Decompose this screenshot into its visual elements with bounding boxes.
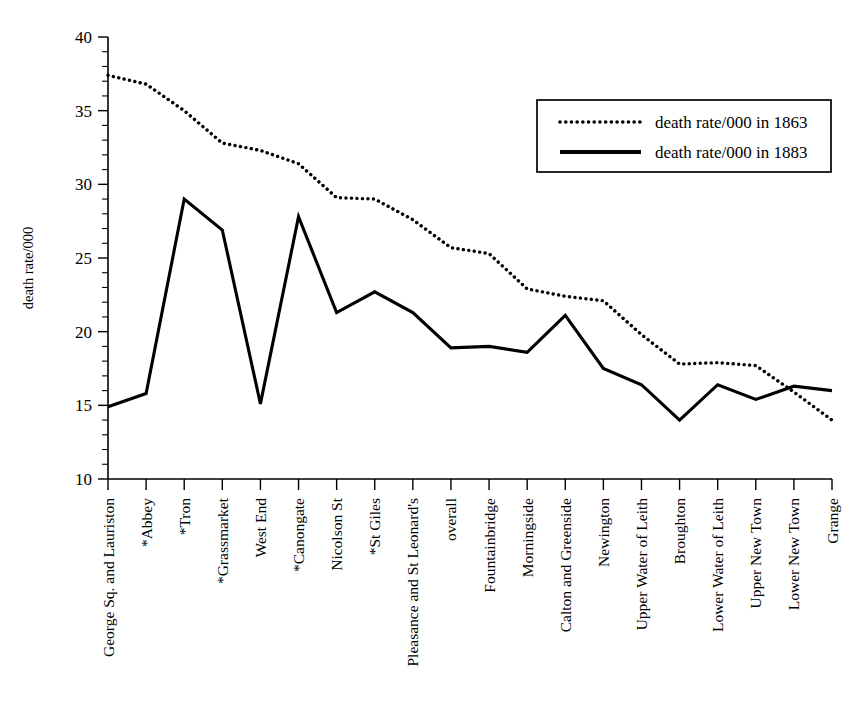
x-tick-label: Lower Water of Leith: [709, 498, 726, 632]
x-tick-label: Broughton: [671, 498, 688, 565]
x-tick-label: overall: [442, 498, 459, 541]
x-tick-label: West End: [252, 498, 269, 558]
y-tick-label: 35: [75, 102, 92, 121]
x-tick-label: Newington: [595, 498, 612, 567]
x-tick-label: Fountainbridge: [481, 498, 498, 593]
x-tick-label: George Sq. and Lauriston: [100, 498, 117, 657]
chart-legend: death rate/000 in 1863death rate/000 in …: [537, 100, 831, 172]
series-line-1883: [108, 199, 832, 420]
legend-label: death rate/000 in 1883: [655, 143, 808, 162]
x-tick-label: *Grassmarket: [214, 497, 231, 584]
x-tick-label: Upper New Town: [747, 498, 764, 609]
x-tick-label: Calton and Greenside: [557, 498, 574, 632]
y-axis: 40353025201510: [75, 28, 108, 489]
x-tick-label: Morningside: [519, 498, 536, 577]
line-chart: 40353025201510 George Sq. and Lauriston*…: [0, 0, 854, 721]
x-tick-label: Grange: [824, 498, 841, 544]
x-tick-label: *St Giles: [366, 498, 383, 555]
y-tick-label: 30: [75, 175, 92, 194]
legend-label: death rate/000 in 1863: [655, 113, 808, 132]
x-tick-label: *Tron: [176, 498, 193, 536]
x-axis: [108, 479, 832, 490]
chart-container: 40353025201510 George Sq. and Lauriston*…: [0, 0, 854, 721]
x-tick-labels: George Sq. and Lauriston*Abbey*Tron*Gras…: [100, 497, 841, 666]
x-tick-label: Pleasance and St Leonard's: [404, 498, 421, 667]
y-axis-title-text: death rate/000: [20, 227, 36, 310]
y-tick-label: 40: [75, 28, 92, 47]
x-tick-label: Upper Water of Leith: [633, 498, 650, 631]
x-tick-label: *Abbey: [138, 498, 155, 547]
y-tick-label: 10: [75, 470, 92, 489]
x-tick-label: Lower New Town: [785, 498, 802, 611]
x-tick-label: *Canongate: [290, 498, 307, 572]
y-tick-label: 15: [75, 396, 92, 415]
y-tick-label: 20: [75, 323, 92, 342]
y-tick-label: 25: [75, 249, 92, 268]
y-axis-title: death rate/000: [20, 227, 36, 310]
x-tick-label: Nicolson St: [328, 497, 345, 570]
